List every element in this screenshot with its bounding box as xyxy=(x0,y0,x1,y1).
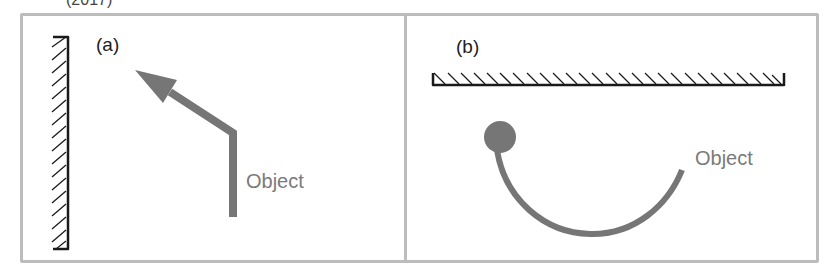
mirror-a xyxy=(52,37,68,249)
figure-graphics xyxy=(0,0,833,272)
panel-label-a: (a) xyxy=(96,34,119,56)
object-arrow xyxy=(135,70,233,217)
panel-label-b: (b) xyxy=(456,36,479,58)
mirror-b xyxy=(433,73,784,85)
object-label-a: Object xyxy=(246,170,304,193)
object-curved-rod xyxy=(484,121,682,234)
object-label-b: Object xyxy=(695,147,753,170)
